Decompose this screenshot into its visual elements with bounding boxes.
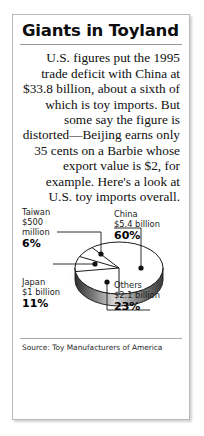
pie-label-china-amt: $5.4 billion [114, 219, 160, 229]
dot-taiwan [98, 252, 103, 257]
dot-china [138, 266, 143, 271]
pie-chart: Taiwan $500 million 6% China $5.4 billio… [13, 206, 189, 336]
body-text: U.S. figures put the 1995 trade deficit … [13, 45, 189, 204]
pie-label-others-name: Others [114, 280, 142, 290]
pie-label-japan-name: Japan [22, 277, 45, 287]
pie-label-china-name: China [114, 209, 138, 219]
page-title: Giants in Toyland [13, 15, 189, 43]
pie-label-japan: Japan $1 billion 11% [22, 278, 60, 310]
pie-label-japan-percent: 11% [22, 298, 60, 311]
pie-label-others-amt: $2.1 billion [114, 290, 160, 300]
dot-japan [92, 262, 97, 267]
pie-label-others-percent: 23% [114, 301, 160, 314]
pie-label-china: China $5.4 billion 60% [114, 210, 160, 242]
pie-label-taiwan-percent: 6% [22, 238, 50, 251]
source-credit: Source: Toy Manufacturers of America [13, 339, 189, 352]
pie-label-taiwan-amt2: million [22, 227, 50, 237]
infographic-panel: Giants in Toyland U.S. figures put the 1… [12, 14, 190, 420]
pie-label-taiwan: Taiwan $500 million 6% [22, 208, 50, 250]
pie-label-others: Others $2.1 billion 23% [114, 281, 160, 313]
pie-label-china-percent: 60% [114, 230, 160, 243]
pie-label-taiwan-name: Taiwan [22, 207, 50, 217]
dot-others [104, 280, 109, 285]
pie-label-taiwan-amt1: $500 [22, 217, 43, 227]
pie-label-japan-amt: $1 billion [22, 287, 60, 297]
